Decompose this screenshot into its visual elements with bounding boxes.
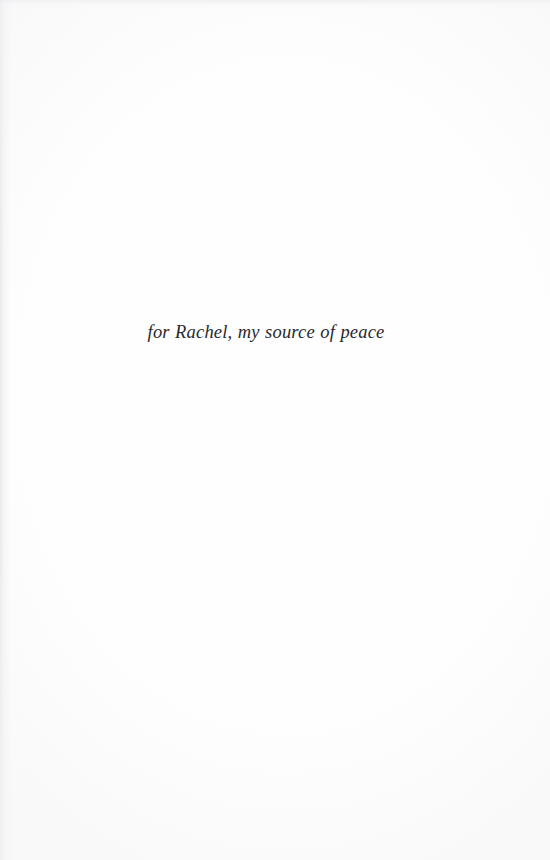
scan-edge-top-artifact (0, 0, 550, 9)
dedication-block: for Rachel, my source of peace (0, 322, 550, 343)
dedication-page: for Rachel, my source of peace (0, 0, 550, 860)
dedication-text: for Rachel, my source of peace (148, 322, 385, 343)
scan-vignette-artifact (0, 0, 550, 860)
scan-edge-left-artifact (0, 0, 11, 860)
